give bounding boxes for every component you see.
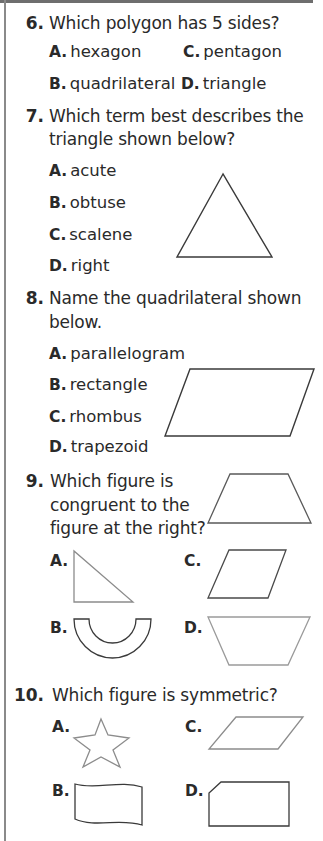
parallelogram-option-icon[interactable] [208, 550, 286, 598]
half-ring-icon[interactable] [74, 619, 151, 658]
clipped-rectangle-icon[interactable] [209, 782, 289, 826]
inverted-trapezoid-icon[interactable] [208, 617, 310, 665]
right-triangle-icon[interactable] [74, 551, 133, 602]
triangle-icon [177, 174, 272, 257]
figures-layer [0, 0, 323, 841]
trapezoid-icon [208, 474, 311, 523]
parallelogram-icon [165, 369, 314, 436]
wavy-flag-icon[interactable] [75, 784, 142, 825]
star-icon[interactable] [74, 719, 129, 767]
parallelogram-symmetric-option-icon[interactable] [209, 717, 303, 749]
